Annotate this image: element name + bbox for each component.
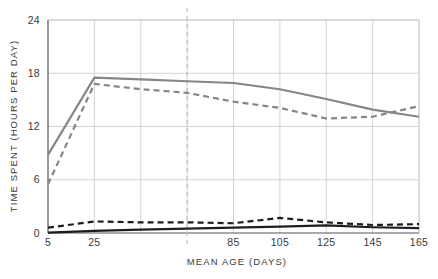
y-axis-title: TIME SPENT (HOURS PER DAY) [8,40,19,212]
y-tick-6: 6 [34,173,40,185]
y-tick-24: 24 [28,14,40,26]
chart-container: 52585105125145165 06121824 MEAN AGE (DAY… [0,0,438,279]
y-tick-12: 12 [28,120,40,132]
x-tick-125: 125 [317,236,335,248]
y-tick-labels: 06121824 [28,14,40,239]
x-tick-85: 85 [227,236,239,248]
x-axis-title: MEAN AGE (DAYS) [187,256,287,267]
x-tick-165: 165 [410,236,428,248]
x-tick-5: 5 [45,236,51,248]
x-tick-25: 25 [88,236,100,248]
line-chart: 52585105125145165 06121824 MEAN AGE (DAY… [0,0,438,279]
x-tick-labels: 52585105125145165 [45,236,428,248]
x-tick-105: 105 [271,236,289,248]
x-tick-145: 145 [363,236,381,248]
grid-layer [48,20,419,233]
y-tick-18: 18 [28,67,40,79]
y-tick-0: 0 [34,227,40,239]
